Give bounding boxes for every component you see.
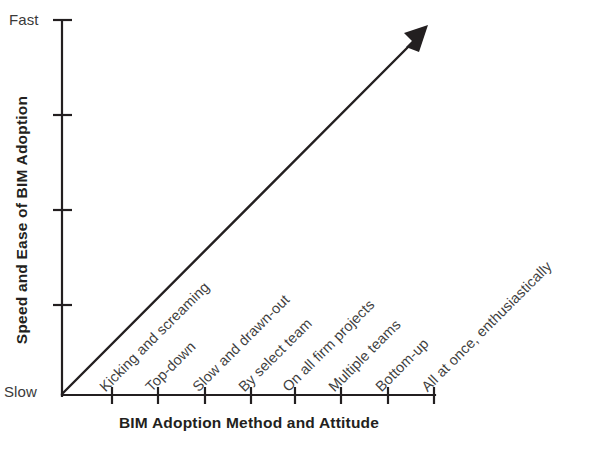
y-axis-high-label: Fast: [9, 11, 39, 28]
chart-figure: Fast Slow Speed and Ease of BIM Adoption…: [0, 0, 605, 450]
y-axis-low-label: Slow: [4, 383, 37, 400]
x-axis-title: BIM Adoption Method and Attitude: [62, 414, 436, 432]
